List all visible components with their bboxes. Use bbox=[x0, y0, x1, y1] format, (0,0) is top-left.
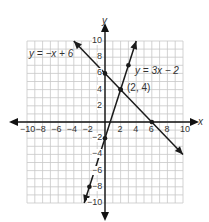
data-point bbox=[103, 71, 108, 76]
equation-label-line-2: y = 3x − 2 bbox=[135, 66, 179, 76]
x-axis-label: x bbox=[198, 117, 203, 127]
x-tick-label: 8 bbox=[164, 125, 169, 134]
x-tick-label: 10 bbox=[180, 125, 190, 134]
x-tick-label: 6 bbox=[149, 125, 154, 134]
y-tick-label: 8 bbox=[97, 52, 102, 61]
data-point bbox=[126, 63, 131, 68]
data-point bbox=[87, 185, 92, 190]
x-tick-label: −10 bbox=[20, 125, 35, 134]
y-tick-label: −6 bbox=[92, 166, 102, 175]
coordinate-plane bbox=[0, 0, 209, 222]
x-tick-label: −4 bbox=[67, 125, 77, 134]
x-tick-label: −8 bbox=[36, 125, 46, 134]
x-axis-arrow-left-icon bbox=[9, 118, 18, 126]
y-tick-label: 10 bbox=[92, 36, 102, 45]
equation-label-line-1: y = −x + 6 bbox=[29, 49, 73, 59]
x-tick-label: −6 bbox=[51, 125, 61, 134]
y-axis-arrow-down-icon bbox=[101, 212, 109, 221]
y-tick-label: 4 bbox=[97, 85, 102, 94]
y-tick-label: −2 bbox=[92, 133, 102, 142]
y-tick-label: 2 bbox=[97, 101, 102, 110]
line-arrowhead-icon bbox=[130, 41, 137, 50]
y-axis-label: y bbox=[102, 16, 107, 26]
data-point bbox=[118, 87, 123, 92]
y-tick-label: 6 bbox=[97, 68, 102, 77]
intersection-label: (2, 4) bbox=[127, 83, 150, 93]
y-tick-label: −4 bbox=[92, 149, 102, 158]
x-tick-label: 4 bbox=[133, 125, 138, 134]
y-tick-label: −8 bbox=[92, 182, 102, 191]
x-tick-label: 2 bbox=[118, 125, 123, 134]
y-tick-label: −10 bbox=[87, 198, 102, 207]
data-point bbox=[103, 136, 108, 141]
